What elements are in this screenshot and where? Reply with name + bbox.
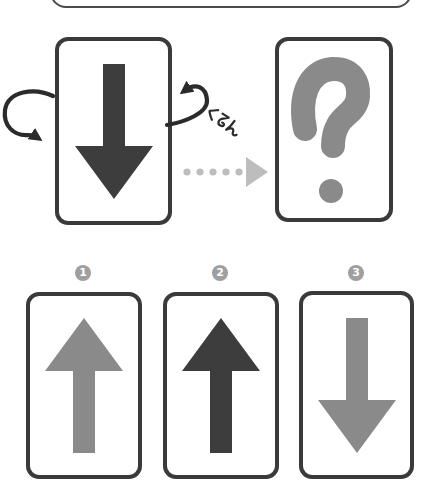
up-arrow-icon xyxy=(45,318,123,453)
rotate-left-path xyxy=(5,91,53,138)
hiragana-ru xyxy=(216,114,228,128)
dotted-arrow-group xyxy=(183,157,268,187)
question-mark-dot xyxy=(319,179,343,203)
up-arrow-icon xyxy=(182,318,260,453)
hiragana-n xyxy=(226,120,242,137)
source-card xyxy=(55,37,172,225)
arrowhead xyxy=(246,157,268,187)
dot xyxy=(183,168,190,175)
dot xyxy=(235,168,242,175)
down-arrow-icon xyxy=(318,318,396,453)
option-2-badge[interactable]: 2 xyxy=(212,265,228,281)
up-arrow-shape xyxy=(45,318,123,453)
hiragana-ku xyxy=(206,106,218,119)
option-1-badge[interactable]: 1 xyxy=(75,265,91,281)
rotate-left-arrow-icon xyxy=(0,86,58,144)
option-card-3[interactable] xyxy=(299,291,414,479)
puzzle-figure: 1 2 3 xyxy=(0,0,438,501)
dot xyxy=(209,168,216,175)
question-mark-stroke xyxy=(303,69,358,146)
down-arrow-shape xyxy=(75,64,153,199)
option-3-badge[interactable]: 3 xyxy=(348,265,364,281)
option-card-2[interactable] xyxy=(163,292,279,479)
top-panel-fragment xyxy=(50,0,412,8)
up-arrow-shape xyxy=(182,318,260,453)
dot xyxy=(196,168,203,175)
question-mark-icon xyxy=(279,41,389,218)
option-card-1[interactable] xyxy=(26,292,142,479)
down-arrow-shape xyxy=(318,318,396,453)
dot xyxy=(222,168,229,175)
kurun-spin-label xyxy=(200,98,264,150)
result-card xyxy=(275,37,393,222)
kurun-glyphs xyxy=(206,106,243,136)
down-arrow-icon xyxy=(75,64,153,199)
dotted-arrow-icon xyxy=(182,154,272,190)
